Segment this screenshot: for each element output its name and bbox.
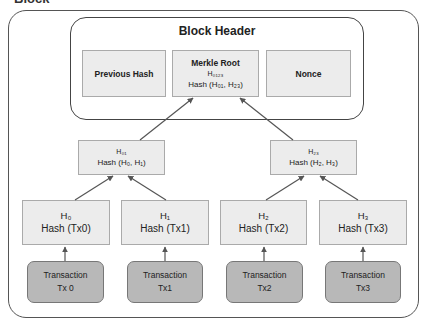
arrow-h2-to-h23-icon bbox=[266, 176, 304, 200]
arrow-h0-to-h01-icon bbox=[75, 176, 113, 200]
arrow-h01-to-merkle-icon bbox=[140, 98, 193, 140]
arrow-h23-to-merkle-icon bbox=[240, 98, 293, 140]
arrows-layer bbox=[0, 0, 429, 331]
arrow-h1-to-h01-icon bbox=[128, 176, 166, 200]
arrow-h3-to-h23-icon bbox=[320, 176, 358, 200]
